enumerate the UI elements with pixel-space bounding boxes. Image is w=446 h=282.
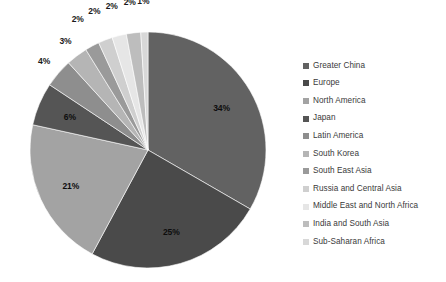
legend-item[interactable]: Greater China <box>303 57 443 75</box>
legend-item-label: Greater China <box>313 62 365 70</box>
slice-percent-label: 2% <box>72 15 84 24</box>
legend-swatch-icon <box>303 63 309 69</box>
pie-svg <box>18 8 284 276</box>
slice-percent-label: 2% <box>88 7 100 16</box>
legend-item[interactable]: South East Asia <box>303 163 443 181</box>
legend-swatch-icon <box>303 116 309 122</box>
legend-item-label: South Korea <box>313 150 359 158</box>
pie-plot-area: 34%25%21%6%4%3%2%2%2%2%1% <box>18 8 284 276</box>
legend-item[interactable]: Middle East and North Africa <box>303 198 443 216</box>
legend-swatch-icon <box>303 151 309 157</box>
legend-item[interactable]: South Korea <box>303 145 443 163</box>
legend-item[interactable]: North America <box>303 92 443 110</box>
legend-item-label: Sub-Saharan Africa <box>313 238 385 246</box>
slice-percent-label: 2% <box>106 2 118 11</box>
legend-swatch-icon <box>303 168 309 174</box>
legend-item-label: Europe <box>313 79 340 87</box>
legend-swatch-icon <box>303 98 309 104</box>
legend-item-label: South East Asia <box>313 167 372 175</box>
legend-item[interactable]: Sub-Saharan Africa <box>303 233 443 251</box>
legend-item-label: Russia and Central Asia <box>313 185 402 193</box>
legend-item-label: India and South Asia <box>313 220 389 228</box>
legend-swatch-icon <box>303 133 309 139</box>
legend-item-label: North America <box>313 97 366 105</box>
legend-item[interactable]: Japan <box>303 110 443 128</box>
slice-percent-label: 6% <box>64 113 76 122</box>
legend-swatch-icon <box>303 221 309 227</box>
chart-legend: Greater ChinaEuropeNorth AmericaJapanLat… <box>303 57 443 251</box>
slice-percent-label: 3% <box>59 37 71 46</box>
slice-percent-label: 2% <box>124 0 136 7</box>
legend-item[interactable]: Russia and Central Asia <box>303 180 443 198</box>
slice-percent-label: 4% <box>38 57 50 66</box>
slice-percent-label: 1% <box>137 0 149 6</box>
legend-swatch-icon <box>303 204 309 210</box>
pie-slices-group <box>30 32 266 268</box>
legend-swatch-icon <box>303 80 309 86</box>
pie-chart-figure: 34%25%21%6%4%3%2%2%2%2%1% Greater ChinaE… <box>0 0 446 282</box>
legend-swatch-icon <box>303 186 309 192</box>
legend-item[interactable]: India and South Asia <box>303 215 443 233</box>
legend-item-label: Japan <box>313 114 336 122</box>
slice-percent-label: 21% <box>62 181 79 190</box>
slice-percent-label: 25% <box>163 227 180 236</box>
legend-item[interactable]: Latin America <box>303 127 443 145</box>
legend-item[interactable]: Europe <box>303 75 443 93</box>
slice-percent-label: 34% <box>213 103 230 112</box>
legend-item-label: Latin America <box>313 132 363 140</box>
legend-swatch-icon <box>303 239 309 245</box>
legend-item-label: Middle East and North Africa <box>313 202 418 210</box>
